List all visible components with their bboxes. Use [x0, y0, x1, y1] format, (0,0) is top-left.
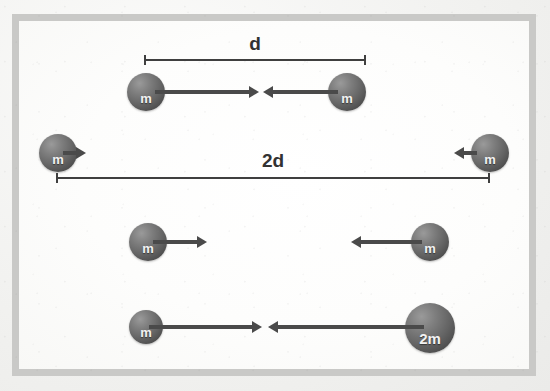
row-2-dimension-label: 2d: [56, 150, 490, 172]
dimension-tick-right: [364, 55, 366, 65]
row-3-left-force-arrow: [153, 240, 198, 244]
dimension-tick-left: [56, 173, 58, 183]
dimension-tick-left: [144, 55, 146, 65]
physics-diagram-figure: d m m m m: [0, 0, 550, 391]
row-1-dimension-label: d: [144, 33, 366, 55]
row-1-dimension-line: [144, 59, 366, 61]
dimension-tick-right: [488, 173, 490, 183]
row-2-dimension-line: [56, 177, 490, 179]
row-3-left-mass-label: m: [142, 242, 154, 261]
diagram-canvas: d m m m m: [19, 21, 529, 369]
row-4-right-force-arrow: [277, 325, 424, 329]
row-1-right-force-arrow: [272, 90, 338, 94]
row-3-right-force-arrow: [360, 240, 422, 244]
row-4-right-mass-label: 2m: [419, 331, 441, 353]
row-1-right-mass-label: m: [341, 92, 353, 111]
row-1-left-mass-label: m: [140, 92, 152, 111]
row-3-right-mass-label: m: [424, 242, 436, 261]
row-4-left-force-arrow: [149, 325, 253, 329]
row-1-left-force-arrow: [155, 90, 250, 94]
